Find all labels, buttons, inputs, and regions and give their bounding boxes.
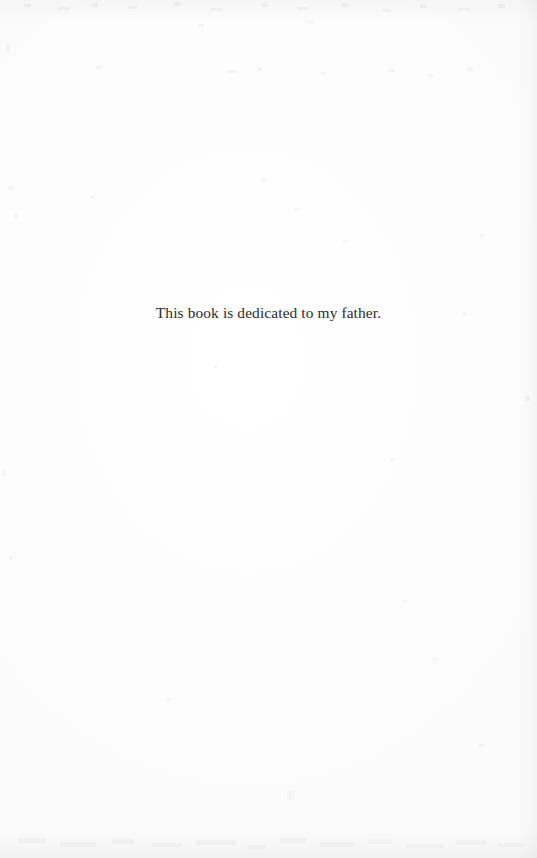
top-edge-speckle — [0, 0, 537, 24]
bottom-edge-shadow — [0, 828, 537, 858]
right-edge-shadow — [519, 0, 537, 858]
dedication-block: This book is dedicated to my father. — [0, 303, 537, 323]
paper-tint — [0, 0, 537, 858]
dedication-text: This book is dedicated to my father. — [156, 303, 381, 323]
scanned-page: This book is dedicated to my father. — [0, 0, 537, 858]
scan-speckles — [0, 0, 537, 858]
